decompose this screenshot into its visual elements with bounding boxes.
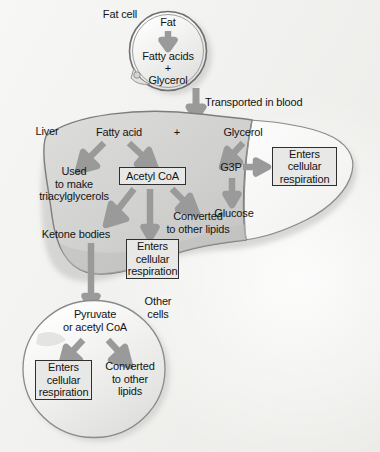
glycerol-cell-label: Glycerol <box>138 74 198 87</box>
glycerol-liver-label: Glycerol <box>215 126 271 139</box>
g3p-label: G3P <box>215 161 247 174</box>
enters-cellular-respiration-box-liver: Enters cellular respiration <box>126 239 179 279</box>
diagram-canvas: Fat cell Fat Fatty acids + Glycerol Tran… <box>0 0 380 452</box>
plus-sign-liver: + <box>168 126 186 139</box>
pyruvate-or-acetyl-coa-label: Pyruvate or acetyl CoA <box>40 308 150 333</box>
fat-cell-label: Fat cell <box>90 8 150 21</box>
fat-label: Fat <box>148 16 188 29</box>
fatty-acids-label: Fatty acids <box>132 50 204 63</box>
plus-sign-cell: + <box>152 62 184 75</box>
acetyl-coa-box: Acetyl CoA <box>119 167 186 185</box>
liver-label: Liver <box>26 125 68 138</box>
transported-in-blood-label: Transported in blood <box>205 96 345 109</box>
glucose-label: Glucose <box>208 207 260 220</box>
enters-cellular-respiration-box-right: Enters cellular respiration <box>272 147 337 186</box>
converted-to-other-lipids-cells-label: Converted to other lipids <box>96 360 164 398</box>
enters-cellular-respiration-box-other-cells: Enters cellular respiration <box>35 360 92 400</box>
fatty-acid-label: Fatty acid <box>88 126 150 139</box>
used-to-make-triacylglycerols-label: Used to make triacylglycerols <box>24 165 124 203</box>
ketone-bodies-label: Ketone bodies <box>36 228 116 241</box>
